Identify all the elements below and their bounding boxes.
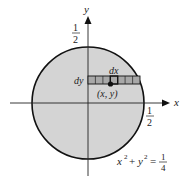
- svg-text:x: x: [116, 155, 122, 167]
- y-tick-numerator: 1: [73, 22, 78, 33]
- dy-label: dy: [74, 75, 84, 86]
- svg-text:2: 2: [124, 153, 128, 161]
- circle-equation: x 2 + y 2 = 1 4: [116, 152, 167, 173]
- y-axis-label: y: [83, 3, 89, 15]
- svg-text:=: =: [150, 155, 156, 167]
- svg-text:+: +: [129, 155, 135, 167]
- x-tick-numerator: 1: [147, 105, 152, 116]
- svg-text:1: 1: [161, 152, 166, 162]
- svg-text:y: y: [137, 155, 143, 167]
- horizontal-strip: [88, 76, 140, 84]
- y-tick-denominator: 2: [73, 34, 78, 45]
- dx-label: dx: [109, 65, 119, 76]
- circle-region-diagram: y x 1 2 1 2 dx dy (x, y) x 2 + y 2 = 1 4: [0, 0, 187, 188]
- svg-text:4: 4: [161, 163, 166, 173]
- point-label: (x, y): [97, 88, 118, 100]
- y-axis-arrow-icon: [85, 16, 92, 24]
- x-tick-denominator: 2: [147, 117, 152, 128]
- svg-text:2: 2: [144, 153, 148, 161]
- x-axis-arrow-icon: [162, 100, 170, 107]
- point-marker: [108, 81, 113, 86]
- x-axis-label: x: [173, 96, 179, 108]
